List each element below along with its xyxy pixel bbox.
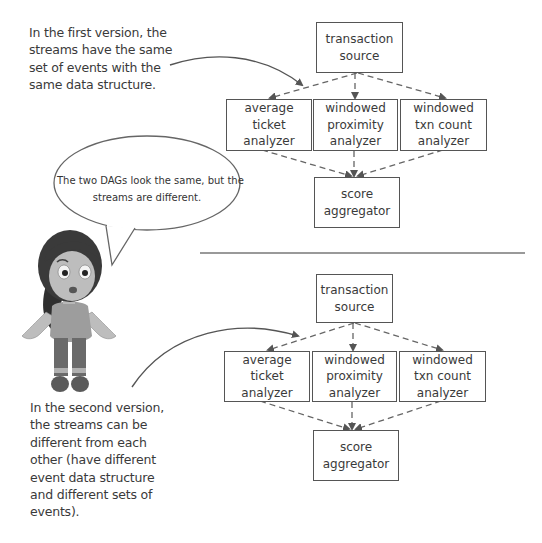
top-node-windowed-txn-count-analyzer: windowed txn count analyzer bbox=[400, 99, 487, 151]
caption-line: different from each bbox=[30, 434, 164, 451]
bottom-caption: In the second version, the streams can b… bbox=[30, 399, 164, 521]
node-label: analyzer bbox=[417, 385, 468, 402]
node-label: average bbox=[242, 352, 291, 369]
node-label: transaction bbox=[321, 282, 389, 299]
top-node-average-ticket-analyzer: average ticket analyzer bbox=[226, 99, 312, 151]
bottom-node-transaction-source: transaction source bbox=[316, 274, 393, 323]
top-node-transaction-source: transaction source bbox=[316, 22, 403, 73]
caption-line: same data structure. bbox=[29, 76, 172, 93]
node-label: analyzer bbox=[329, 385, 380, 402]
node-label: analyzer bbox=[243, 133, 294, 150]
node-label: windowed bbox=[325, 100, 386, 117]
caption-line: events). bbox=[30, 503, 164, 520]
caption-line: other (have different bbox=[30, 451, 164, 468]
node-label: aggregator bbox=[324, 203, 391, 220]
node-label: average bbox=[244, 100, 293, 117]
node-label: proximity bbox=[327, 117, 384, 134]
caption-line: In the second version, bbox=[30, 399, 164, 416]
bubble-line: The two DAGs look the same, but the bbox=[57, 172, 237, 189]
top-callout-arrow bbox=[170, 57, 302, 85]
top-node-score-aggregator: score aggregator bbox=[314, 177, 400, 228]
bubble-line: streams are different. bbox=[57, 189, 237, 206]
top-caption: In the first version, the streams have t… bbox=[29, 24, 172, 94]
node-label: windowed bbox=[413, 100, 474, 117]
node-label: analyzer bbox=[241, 385, 292, 402]
caption-line: and different sets of bbox=[30, 486, 164, 503]
node-label: proximity bbox=[326, 368, 383, 385]
node-label: source bbox=[340, 48, 380, 65]
bottom-node-score-aggregator: score aggregator bbox=[313, 430, 399, 481]
node-label: windowed bbox=[324, 352, 385, 369]
caption-line: event data structure bbox=[30, 469, 164, 486]
bottom-node-windowed-txn-count-analyzer: windowed txn count analyzer bbox=[399, 351, 486, 402]
node-label: ticket bbox=[250, 368, 283, 385]
node-label: windowed bbox=[412, 352, 473, 369]
node-label: analyzer bbox=[418, 133, 469, 150]
node-label: aggregator bbox=[323, 456, 390, 473]
caption-line: set of events with the bbox=[29, 59, 172, 76]
bottom-node-windowed-proximity-analyzer: windowed proximity analyzer bbox=[312, 351, 397, 402]
node-label: ticket bbox=[252, 117, 285, 134]
top-node-windowed-proximity-analyzer: windowed proximity analyzer bbox=[313, 99, 398, 151]
girl-character-illustration bbox=[22, 230, 116, 392]
node-label: txn count bbox=[415, 117, 472, 134]
node-label: source bbox=[335, 299, 375, 316]
node-label: txn count bbox=[414, 368, 471, 385]
node-label: score bbox=[341, 186, 373, 203]
caption-line: In the first version, the bbox=[29, 24, 172, 41]
caption-line: the streams can be bbox=[30, 416, 164, 433]
node-label: score bbox=[340, 439, 372, 456]
bottom-node-average-ticket-analyzer: average ticket analyzer bbox=[224, 351, 310, 402]
caption-line: streams have the same bbox=[29, 41, 172, 58]
node-label: analyzer bbox=[330, 133, 381, 150]
node-label: transaction bbox=[326, 31, 394, 48]
speech-bubble-text: The two DAGs look the same, but the stre… bbox=[57, 172, 237, 206]
